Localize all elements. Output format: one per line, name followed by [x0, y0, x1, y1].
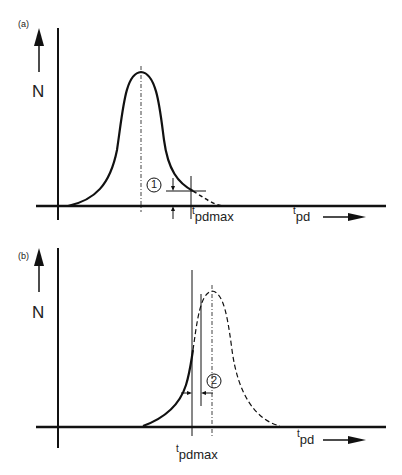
- arrow-right-small-icon: [187, 391, 192, 395]
- arrow-left-small-icon: [201, 391, 206, 395]
- y-axis-label-b: N: [32, 304, 44, 321]
- arrow-up-icon: [34, 248, 44, 266]
- threshold-t: t: [176, 443, 179, 454]
- panel-b: [34, 248, 386, 448]
- arrow-up-icon: [34, 28, 44, 46]
- tail-dashed-a: [193, 191, 222, 206]
- panel-label-b: (b): [18, 252, 29, 261]
- arrow-down-icon: [171, 186, 175, 191]
- x-label-sub: pd: [296, 209, 310, 224]
- panel-a: [34, 28, 386, 221]
- distribution-curve-b-dashed: [193, 291, 280, 426]
- distribution-curve-a: [68, 72, 193, 206]
- threshold-t: t: [192, 205, 195, 216]
- x-label-t: t: [297, 428, 300, 439]
- threshold-label-a: tpdmax: [192, 210, 234, 223]
- marker-label-1: 1: [151, 179, 157, 190]
- x-axis-label-b: tpd: [297, 433, 314, 446]
- threshold-sub: pdmax: [179, 447, 218, 462]
- x-axis-label-a: tpd: [293, 210, 310, 223]
- threshold-sub: pdmax: [195, 209, 234, 224]
- panel-label-a: (a): [18, 20, 29, 29]
- arrow-right-icon: [348, 436, 366, 444]
- y-axis-label-a: N: [32, 83, 44, 100]
- figure-canvas: [0, 0, 402, 475]
- threshold-label-b: tpdmax: [176, 448, 218, 461]
- x-label-t: t: [293, 205, 296, 216]
- x-label-sub: pd: [300, 432, 314, 447]
- marker-label-2: 2: [211, 375, 217, 386]
- distribution-curve-b-solid: [143, 350, 193, 426]
- arrow-right-icon: [348, 213, 366, 221]
